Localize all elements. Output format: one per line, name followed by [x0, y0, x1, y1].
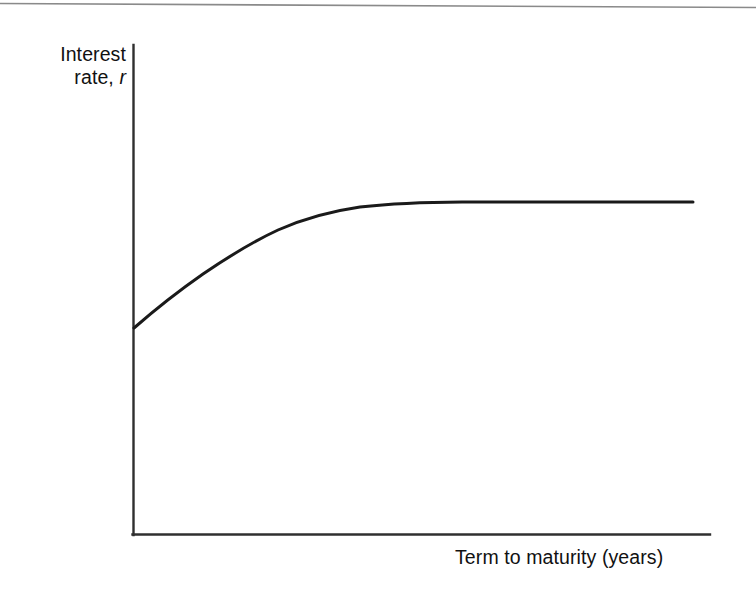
x-axis-label: Term to maturity (years) [455, 546, 663, 569]
y-axis-label-line-1: Interest [0, 43, 126, 66]
yield-curve-figure: Interest rate, r Term to maturity (years… [0, 0, 756, 592]
y-axis-label: Interest rate, r [0, 43, 126, 89]
yield-curve-line [134, 202, 693, 328]
y-axis-label-variable: r [119, 66, 126, 88]
page-scan-edge-line [0, 4, 756, 8]
y-axis-label-line-2: rate, r [0, 66, 126, 89]
y-axis-label-prefix: rate, [74, 66, 119, 88]
